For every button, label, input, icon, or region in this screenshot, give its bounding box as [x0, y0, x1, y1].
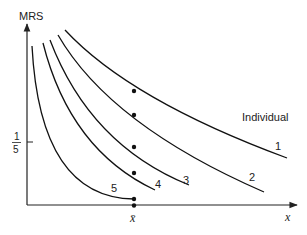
curve-5: [32, 46, 134, 199]
point-curve-3: [132, 145, 136, 149]
point-curve-5: [132, 197, 136, 201]
curve-label-5: 5: [111, 182, 117, 194]
individual-label: Individual: [242, 111, 288, 123]
point-curve-4: [132, 171, 136, 175]
curve-2: [58, 35, 264, 192]
y-tick-denominator: 5: [13, 144, 19, 155]
curve-label-1: 1: [275, 140, 281, 152]
curve-1: [65, 30, 287, 158]
point-curve-1: [132, 89, 136, 93]
x-bar-label: x̄: [129, 211, 136, 225]
curve-label-3: 3: [183, 174, 189, 186]
point-x-bar: [132, 203, 136, 207]
curve-4: [43, 43, 155, 190]
y-tick-numerator: 1: [14, 131, 20, 142]
point-curve-2: [132, 113, 136, 117]
mrs-diagram: MRS x x̄ 1 5 Individual 1 2 3 4 5: [0, 0, 307, 235]
y-axis-label: MRS: [19, 10, 43, 22]
curve-label-2: 2: [249, 171, 255, 183]
curve-label-4: 4: [155, 178, 161, 190]
x-axis-label: x: [284, 210, 291, 224]
